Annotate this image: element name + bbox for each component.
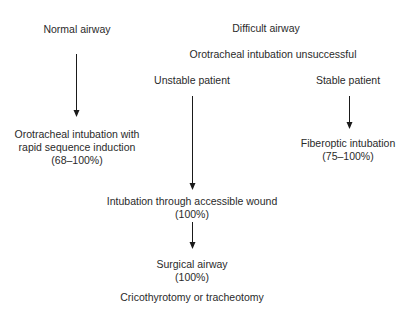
rsi-intubation-node: Orotracheal intubation with rapid sequen… — [15, 128, 140, 167]
fiberoptic-intubation-node: Fiberoptic intubation (75–100%) — [301, 137, 396, 163]
stable-patient-label: Stable patient — [316, 74, 380, 87]
cricothyrotomy-text: Cricothyrotomy or tracheotomy — [120, 291, 264, 304]
rsi-rate: (68–100%) — [15, 154, 140, 167]
unstable-patient-label: Unstable patient — [154, 74, 230, 87]
rsi-line1: Orotracheal intubation with — [15, 128, 140, 141]
arrow-normal-to-rsi — [74, 54, 80, 117]
rsi-line2: rapid sequence induction — [15, 141, 140, 154]
normal-airway-title: Normal airway — [43, 23, 110, 36]
stable-patient-title: Stable patient — [316, 74, 380, 87]
intubation-unsuccessful-label: Orotracheal intubation unsuccessful — [190, 48, 357, 61]
unstable-patient-title: Unstable patient — [154, 74, 230, 87]
cricothyrotomy-note: Cricothyrotomy or tracheotomy — [120, 291, 264, 304]
wound-intubation-node: Intubation through accessible wound (100… — [107, 195, 277, 221]
difficult-airway-label: Difficult airway — [232, 22, 300, 35]
fiberoptic-line1: Fiberoptic intubation — [301, 137, 396, 150]
wound-line1: Intubation through accessible wound — [107, 195, 277, 208]
wound-rate: (100%) — [107, 208, 277, 221]
intubation-unsuccessful-text: Orotracheal intubation unsuccessful — [190, 48, 357, 61]
difficult-airway-title: Difficult airway — [232, 22, 300, 35]
surgical-airway-node: Surgical airway (100%) — [156, 258, 227, 284]
surgical-line1: Surgical airway — [156, 258, 227, 271]
surgical-rate: (100%) — [156, 271, 227, 284]
normal-airway-label: Normal airway — [43, 23, 110, 36]
arrow-wound-to-surgical — [190, 222, 196, 249]
arrow-unstable-to-wound — [190, 96, 196, 190]
fiberoptic-rate: (75–100%) — [301, 150, 396, 163]
arrow-stable-to-fiberoptic — [347, 96, 353, 129]
